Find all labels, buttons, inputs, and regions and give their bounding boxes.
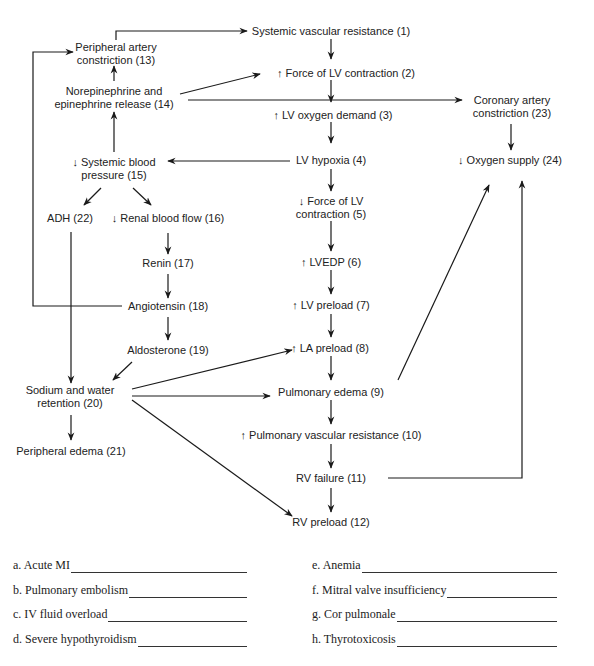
node-label-line-1: Sodium and water bbox=[26, 384, 115, 397]
node-angiotensin: Angiotensin (18) bbox=[128, 300, 208, 313]
question-label: g. Cor pulmonale bbox=[312, 607, 396, 622]
node-label-line-2: constriction (13) bbox=[75, 54, 156, 67]
arrow-15-to-16 bbox=[133, 188, 151, 205]
answer-blank-f[interactable] bbox=[447, 587, 557, 598]
node-label-line-1: Norepinephrine and bbox=[54, 85, 173, 98]
node-systemic-vascular-resistance: Systemic vascular resistance (1) bbox=[252, 25, 410, 38]
node-label-line-1: ↓ Force of LV bbox=[296, 195, 366, 208]
node-label-line-1: Coronary artery bbox=[473, 94, 551, 107]
node-la-preload: ↑ LA preload (8) bbox=[291, 342, 369, 355]
node-decreased-lv-contraction-force: ↓ Force of LV contraction (5) bbox=[296, 195, 366, 221]
question-label: b. Pulmonary embolism bbox=[13, 583, 128, 598]
answer-blank-a[interactable] bbox=[71, 562, 247, 573]
node-oxygen-supply: ↓ Oxygen supply (24) bbox=[458, 154, 562, 167]
question-a: a. Acute MI bbox=[13, 558, 247, 573]
node-coronary-artery-constriction: Coronary artery constriction (23) bbox=[473, 94, 551, 120]
node-norepinephrine-release: Norepinephrine and epinephrine release (… bbox=[54, 85, 173, 111]
node-label-line-1: Peripheral artery bbox=[75, 41, 156, 54]
node-renal-blood-flow: ↓ Renal blood flow (16) bbox=[112, 212, 225, 225]
node-adh: ADH (22) bbox=[47, 212, 93, 225]
node-label-line-2: pressure (15) bbox=[72, 169, 155, 182]
node-lv-hypoxia: LV hypoxia (4) bbox=[296, 154, 366, 167]
arrow-13-to-1 bbox=[116, 31, 247, 40]
question-g: g. Cor pulmonale bbox=[312, 607, 557, 622]
node-pulmonary-vascular-resistance: ↑ Pulmonary vascular resistance (10) bbox=[241, 429, 422, 442]
node-peripheral-edema: Peripheral edema (21) bbox=[16, 445, 125, 458]
answer-blank-c[interactable] bbox=[108, 611, 247, 622]
node-label-line-1: ↓ Systemic blood bbox=[72, 156, 155, 169]
arrow-9-to-24 bbox=[398, 185, 489, 380]
question-h: h. Thyrotoxicosis bbox=[312, 632, 557, 647]
answer-blank-g[interactable] bbox=[397, 611, 557, 622]
question-label: d. Severe hypothyroidism bbox=[13, 632, 137, 647]
node-systemic-blood-pressure: ↓ Systemic blood pressure (15) bbox=[72, 156, 155, 182]
question-label: c. IV fluid overload bbox=[13, 607, 107, 622]
question-label: e. Anemia bbox=[312, 558, 361, 573]
node-label-line-2: constriction (23) bbox=[473, 107, 551, 120]
node-lv-oxygen-demand: ↑ LV oxygen demand (3) bbox=[273, 109, 392, 122]
node-increased-lv-contraction-force: ↑ Force of LV contraction (2) bbox=[277, 67, 415, 80]
question-c: c. IV fluid overload bbox=[13, 607, 247, 622]
flow-diagram-page: Systemic vascular resistance (1) ↑ Force… bbox=[0, 0, 594, 666]
node-peripheral-artery-constriction: Peripheral artery constriction (13) bbox=[75, 41, 156, 67]
node-aldosterone: Aldosterone (19) bbox=[127, 344, 208, 357]
answer-blank-h[interactable] bbox=[397, 636, 557, 647]
question-f: f. Mitral valve insufficiency bbox=[312, 583, 557, 598]
question-label: f. Mitral valve insufficiency bbox=[312, 583, 446, 598]
answer-blank-b[interactable] bbox=[129, 587, 247, 598]
arrow-19-to-20 bbox=[113, 362, 132, 380]
answer-blank-d[interactable] bbox=[138, 636, 247, 647]
node-sodium-water-retention: Sodium and water retention (20) bbox=[26, 384, 115, 410]
question-label: a. Acute MI bbox=[13, 558, 70, 573]
question-b: b. Pulmonary embolism bbox=[13, 583, 247, 598]
node-pulmonary-edema: Pulmonary edema (9) bbox=[278, 386, 384, 399]
question-d: d. Severe hypothyroidism bbox=[13, 632, 247, 647]
arrow-15-to-22 bbox=[84, 188, 101, 205]
node-label-line-2: retention (20) bbox=[26, 397, 115, 410]
arrow-14-to-2 bbox=[180, 74, 260, 94]
node-lv-preload: ↑ LV preload (7) bbox=[292, 299, 369, 312]
node-label-line-2: contraction (5) bbox=[296, 208, 366, 221]
node-renin: Renin (17) bbox=[142, 257, 193, 270]
node-lvedp: ↑ LVEDP (6) bbox=[301, 256, 361, 269]
question-label: h. Thyrotoxicosis bbox=[312, 632, 396, 647]
arrow-20-to-12 bbox=[132, 400, 292, 516]
node-label-line-2: epinephrine release (14) bbox=[54, 98, 173, 111]
node-rv-preload: RV preload (12) bbox=[292, 516, 369, 529]
answer-blank-e[interactable] bbox=[362, 562, 557, 573]
node-rv-failure: RV failure (11) bbox=[296, 472, 366, 485]
question-e: e. Anemia bbox=[312, 558, 557, 573]
